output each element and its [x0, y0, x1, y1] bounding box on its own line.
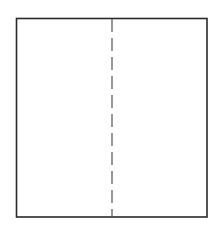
diagram-canvas	[0, 0, 218, 225]
